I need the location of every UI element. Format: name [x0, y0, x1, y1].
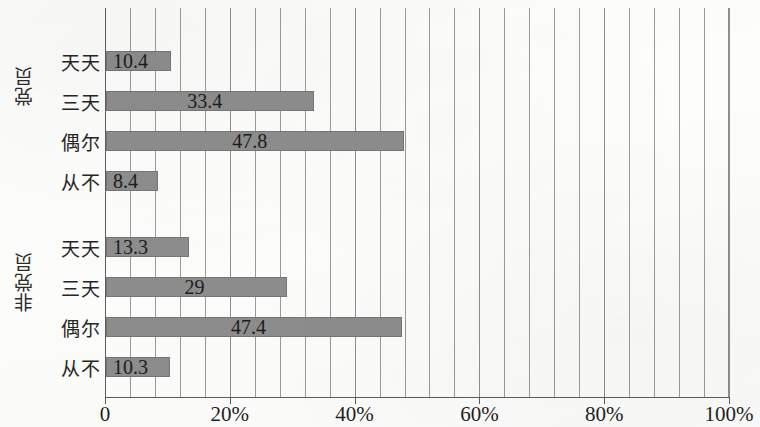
bar-value-label: 47.4 — [231, 317, 266, 337]
x-axis-tick — [355, 398, 356, 404]
gridline — [729, 8, 730, 398]
gridline — [679, 8, 680, 398]
category-label: 偶尔 — [46, 314, 100, 341]
x-axis-tick — [729, 398, 730, 404]
x-axis-tick-label: 20% — [211, 402, 250, 427]
gridline — [205, 8, 206, 398]
category-label: 三天 — [46, 88, 100, 115]
bar-value-label: 10.4 — [113, 51, 148, 71]
bar-value-label: 10.3 — [113, 357, 148, 377]
gridline — [454, 8, 455, 398]
gridline — [604, 8, 605, 398]
gridline — [704, 8, 705, 398]
group-axis-title-dangyuan: 党员 — [4, 66, 44, 109]
category-label: 偶尔 — [46, 128, 100, 155]
gridline — [230, 8, 231, 398]
gridline — [330, 8, 331, 398]
group-axis-title-feidangyuan: 非党员 — [4, 252, 44, 315]
gridline — [554, 8, 555, 398]
x-axis-tick-label: 0 — [100, 402, 111, 427]
x-axis-tick — [604, 398, 605, 404]
bar-value-label: 8.4 — [113, 171, 138, 191]
plot-right-border — [728, 8, 729, 398]
gridline — [429, 8, 430, 398]
gridline — [579, 8, 580, 398]
gridline — [380, 8, 381, 398]
gridline — [280, 8, 281, 398]
x-axis-tick-label: 100% — [705, 402, 754, 427]
x-axis-tick — [230, 398, 231, 404]
gridline — [654, 8, 655, 398]
bar-value-label: 13.3 — [113, 237, 148, 257]
y-axis-line — [105, 8, 106, 398]
gridline — [629, 8, 630, 398]
bar-value-label: 47.8 — [232, 131, 267, 151]
category-label: 从不 — [46, 168, 100, 195]
gridline — [479, 8, 480, 398]
bar-value-label: 33.4 — [187, 91, 222, 111]
x-axis-tick-label: 80% — [585, 402, 624, 427]
gridline — [504, 8, 505, 398]
category-label: 三天 — [46, 274, 100, 301]
gridline — [529, 8, 530, 398]
x-axis-tick — [479, 398, 480, 404]
x-axis-tick — [105, 398, 106, 404]
gridline — [180, 8, 181, 398]
bar-chart: 党员 非党员 天天三天偶尔从不天天三天偶尔从不 10.433.447.88.41… — [0, 0, 760, 427]
gridline — [255, 8, 256, 398]
gridline — [355, 8, 356, 398]
group-axis-title-feidangyuan-text: 非党员 — [15, 252, 34, 312]
group-axis-title-dangyuan-text: 党员 — [15, 66, 34, 106]
x-axis-tick-label: 40% — [335, 402, 374, 427]
x-axis-line — [105, 397, 730, 398]
category-label: 天天 — [46, 48, 100, 75]
x-axis-tick-label: 60% — [460, 402, 499, 427]
bar-value-label: 29 — [184, 277, 204, 297]
category-label: 从不 — [46, 354, 100, 381]
category-label: 天天 — [46, 234, 100, 261]
plot-area: 10.433.447.88.413.32947.410.3 — [105, 8, 729, 398]
gridline — [405, 8, 406, 398]
gridline — [305, 8, 306, 398]
